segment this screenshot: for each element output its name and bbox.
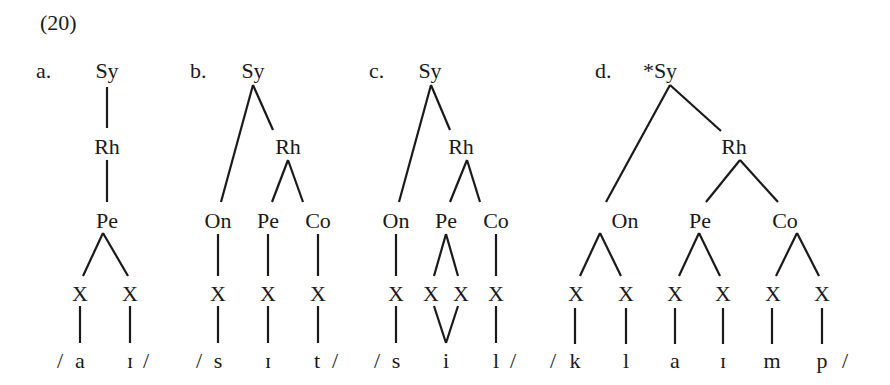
slash: / <box>550 348 557 373</box>
segment: k <box>570 348 581 373</box>
segment: ɪ <box>720 348 726 373</box>
peak-node: Pe <box>96 208 118 233</box>
segment: p <box>817 348 828 373</box>
panel-d: d. *Sy Rh On Pe Co X X X X X X / k l a ɪ… <box>550 58 849 373</box>
skeletal-x: X <box>388 281 404 306</box>
syllable-node: Sy <box>241 58 264 83</box>
skeletal-x: X <box>568 281 584 306</box>
skeletal-x: X <box>210 281 226 306</box>
onset-node: On <box>383 208 410 233</box>
branch-line <box>83 233 103 276</box>
branch-line <box>446 234 458 276</box>
skeletal-x: X <box>667 281 683 306</box>
panel-label: b. <box>190 58 207 83</box>
skeletal-x: X <box>72 281 88 306</box>
branch-line <box>776 233 797 276</box>
rhyme-node: Rh <box>94 134 120 159</box>
slash: / <box>143 348 150 373</box>
slash: / <box>510 348 517 373</box>
slash: / <box>374 348 381 373</box>
peak-node: Pe <box>689 208 711 233</box>
coda-node: Co <box>772 208 798 233</box>
segment: l <box>623 348 629 373</box>
segment: t <box>314 348 320 373</box>
segment: l <box>493 348 499 373</box>
onset-node: On <box>612 208 639 233</box>
segment: s <box>214 348 223 373</box>
segment: a <box>670 348 680 373</box>
association-line <box>434 306 446 343</box>
branch-line <box>600 233 621 276</box>
branch-line <box>253 85 273 130</box>
slash: / <box>196 348 203 373</box>
branch-line <box>103 233 128 276</box>
skeletal-x: X <box>310 281 326 306</box>
slash: / <box>332 348 339 373</box>
onset-node: On <box>205 208 232 233</box>
branch-line <box>272 160 288 202</box>
skeletal-x: X <box>488 281 504 306</box>
skeletal-x: X <box>715 281 731 306</box>
branch-line <box>679 233 699 276</box>
rhyme-node: Rh <box>275 134 301 159</box>
skeletal-x: X <box>618 281 634 306</box>
panel-label: d. <box>595 58 612 83</box>
branch-line <box>467 160 480 202</box>
panel-b: b. Sy Rh On Pe Co X X X / s ɪ t / <box>190 58 339 373</box>
segment: s <box>392 348 401 373</box>
segment: i <box>443 348 449 373</box>
example-number: (20) <box>40 10 77 35</box>
branch-line <box>431 85 450 130</box>
branch-line <box>288 160 303 202</box>
panel-label: c. <box>369 58 384 83</box>
segment: a <box>75 348 85 373</box>
branch-line <box>399 85 431 202</box>
branch-line <box>797 233 819 276</box>
slash: / <box>57 348 64 373</box>
peak-node: Pe <box>435 208 457 233</box>
skeletal-x: X <box>260 281 276 306</box>
syllable-structure-diagram: (20) a. Sy Rh Pe X X / a ɪ / b. Sy Rh On… <box>0 0 890 385</box>
panel-a: a. Sy Rh Pe X X / a ɪ / <box>36 58 150 373</box>
branch-line <box>221 85 253 202</box>
branch-line <box>706 160 740 202</box>
branch-line <box>606 85 670 202</box>
rhyme-node: Rh <box>721 134 747 159</box>
skeletal-x: X <box>814 281 830 306</box>
skeletal-x: X <box>453 281 469 306</box>
syllable-node: Sy <box>95 58 118 83</box>
branch-line <box>434 234 446 276</box>
skeletal-x: X <box>765 281 781 306</box>
branch-line <box>580 233 600 276</box>
skeletal-x: X <box>122 281 138 306</box>
peak-node: Pe <box>257 208 279 233</box>
branch-line <box>699 233 720 276</box>
rhyme-node: Rh <box>448 134 474 159</box>
segment: ɪ <box>127 348 133 373</box>
syllable-node-ungrammatical: *Sy <box>643 58 677 83</box>
panel-c: c. Sy Rh On Pe Co X X X X / s i l / <box>369 58 517 373</box>
coda-node: Co <box>483 208 509 233</box>
segment: ɪ <box>265 348 271 373</box>
skeletal-x: X <box>423 281 439 306</box>
slash: / <box>842 348 849 373</box>
panel-label: a. <box>36 58 51 83</box>
segment: m <box>763 348 780 373</box>
branch-line <box>670 85 721 131</box>
branch-line <box>450 160 467 202</box>
branch-line <box>740 160 778 202</box>
syllable-node: Sy <box>418 58 441 83</box>
association-line <box>446 306 458 343</box>
coda-node: Co <box>305 208 331 233</box>
